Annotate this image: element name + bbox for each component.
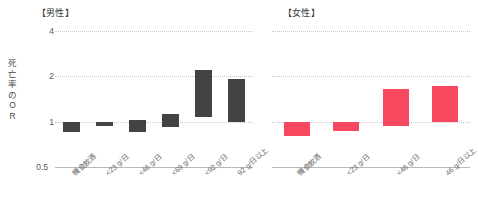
bar [195,70,212,117]
bar [96,122,113,127]
panel-male: 【男性】 死 亡 率 の O R 4 2 1 0.5 [0,0,258,215]
bar [284,122,310,137]
plot-area-male [55,31,253,167]
panel-female: 【女性】 [258,0,472,215]
y-tick-label-1: 1 [28,117,54,127]
gridline-4 [55,31,253,32]
plot-area-female [272,31,470,167]
gridline-2 [272,76,470,77]
bar [162,114,179,127]
bar [432,86,458,122]
bar [129,120,146,132]
y-axis-title-char: 死 [6,58,19,69]
bar [228,79,245,122]
y-axis-title-char: O [6,100,19,111]
y-axis-title-char: 亡 [6,69,19,80]
bar [333,122,359,131]
gridline-2 [55,76,253,77]
bar [63,122,80,133]
y-axis-title-char: R [6,111,19,122]
y-axis-title-char: の [6,90,19,101]
gridline-4 [272,31,470,32]
y-tick-label-0.5: 0.5 [22,162,48,172]
y-tick-label-2: 2 [28,71,54,81]
panel-title-female: 【女性】 [283,6,320,19]
y-axis-title: 死 亡 率 の O R [6,58,19,121]
gridline-1 [55,122,253,123]
y-axis-title-char: 率 [6,79,19,90]
panel-title-male: 【男性】 [37,6,74,19]
bar [383,89,409,127]
y-tick-label-4: 4 [28,26,54,36]
